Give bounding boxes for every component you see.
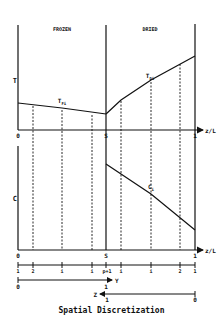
node-label: i — [60, 268, 63, 274]
dried-temperature-curve — [106, 56, 195, 114]
top-end-label: 1 — [193, 132, 197, 139]
node-label: 1 — [16, 268, 19, 274]
bottom-origin-label: 0 — [16, 252, 20, 259]
node-label: 1 — [193, 268, 196, 274]
dried-curve-label: TDi — [146, 72, 155, 81]
y-coordinate-label: Y — [115, 277, 119, 284]
frozen-region-label: FROZEN — [53, 26, 71, 32]
node-label: i — [90, 268, 93, 274]
node-label: 2 — [31, 268, 34, 274]
figure-caption: Spatial Discretization — [0, 306, 223, 315]
dried-region-label: DRIED — [142, 26, 157, 32]
node-label: p+1 — [102, 268, 111, 275]
y-end-label: 1 — [104, 283, 108, 290]
bottom-x-axis-label: z/L — [205, 247, 216, 254]
bottom-interface-label: S — [104, 252, 108, 259]
bottom-y-axis-label: C — [13, 195, 17, 203]
top-y-axis-label: T — [13, 77, 17, 85]
bottom-end-label: 1 — [193, 252, 197, 259]
top-origin-label: 0 — [16, 132, 20, 139]
node-label: i — [119, 268, 122, 274]
dried-concentration-curve — [106, 164, 195, 230]
spatial-discretization-diagram: FROZEN DRIED T C z/L z/L 0 S 1 0 S 1 TFi… — [0, 0, 223, 330]
z-end-label: 0 — [193, 296, 197, 303]
z-coordinate-label: Z — [93, 291, 97, 298]
frozen-curve-label: TFi — [58, 97, 67, 106]
node-labels: 1 2 i i p+1 i i 2 1 — [16, 268, 196, 275]
node-label: 2 — [178, 268, 181, 274]
concentration-curve-label: Ci — [148, 183, 155, 192]
top-x-axis-label: z/L — [205, 127, 216, 134]
z-start-label: 1 — [105, 296, 109, 303]
node-label: i — [149, 268, 152, 274]
top-interface-label: S — [104, 132, 108, 139]
y-start-label: 0 — [16, 283, 20, 290]
